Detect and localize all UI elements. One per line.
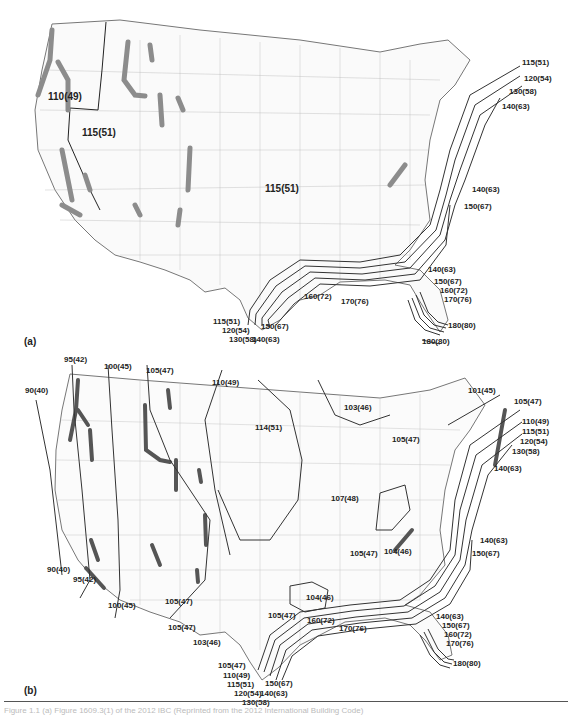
- contour-label: 140(63): [436, 613, 464, 621]
- contour-label: 115(51): [522, 428, 549, 436]
- contour-label: 104(46): [306, 594, 334, 602]
- contour-label: 110(49): [212, 379, 239, 387]
- contour-label: 105(47): [392, 436, 420, 444]
- contour-label: 150(67): [434, 278, 462, 286]
- contour-label: 100(45): [108, 602, 136, 610]
- contour-label: 90(40): [47, 566, 70, 574]
- contour-label: 180(80): [422, 338, 450, 346]
- contour-label: 105(47): [168, 624, 196, 632]
- contour-label: 150(67): [472, 550, 500, 558]
- contour-label: 130(58): [512, 448, 540, 456]
- contour-label: 105(47): [218, 662, 246, 670]
- wind-speed-label: 115(51): [265, 184, 299, 194]
- contour-label: 140(63): [472, 186, 500, 194]
- contour-label: 150(67): [265, 680, 293, 688]
- contour-label: 110(49): [223, 672, 250, 680]
- contour-label: 180(80): [453, 660, 481, 668]
- contour-label: 140(63): [494, 465, 522, 473]
- map-panel-a: 110(49) 115(51) 115(51) 115(51) 120(54) …: [0, 0, 572, 350]
- contour-label: 115(51): [213, 318, 240, 326]
- wind-speed-label: 115(51): [82, 128, 116, 138]
- contour-label: 105(47): [146, 367, 174, 375]
- contour-label: 140(63): [252, 336, 280, 344]
- contour-label: 180(80): [448, 322, 476, 330]
- contour-label: 103(46): [344, 404, 372, 412]
- contour-label: 95(42): [73, 576, 96, 584]
- contour-label: 170(76): [446, 640, 474, 648]
- contour-label: 150(67): [261, 323, 289, 331]
- contour-label: 90(40): [25, 387, 48, 395]
- contour-label: 115(51): [522, 59, 549, 67]
- contour-label: 105(47): [514, 398, 542, 406]
- contour-label: 105(47): [268, 612, 296, 620]
- contour-label: 104(46): [384, 548, 412, 556]
- contour-label: 114(51): [255, 424, 282, 432]
- contour-label: 105(47): [350, 550, 378, 558]
- contour-label: 160(72): [440, 287, 468, 295]
- contour-label: 107(48): [331, 495, 359, 503]
- panel-letter-b: (b): [24, 685, 37, 696]
- contour-label: 103(46): [193, 639, 221, 647]
- contour-label: 140(63): [428, 266, 456, 274]
- us-map-a: [0, 0, 572, 350]
- contour-label: 120(54): [524, 75, 552, 83]
- contour-label: 140(63): [480, 537, 508, 545]
- contour-label: 150(67): [464, 203, 492, 211]
- contour-label: 140(63): [502, 103, 530, 111]
- figure-caption: Figure 1.1 (a) Figure 1609.3(1) of the 2…: [4, 706, 568, 715]
- contour-label: 95(42): [64, 356, 87, 364]
- contour-label: 100(45): [104, 363, 132, 371]
- contour-label: 160(72): [444, 631, 472, 639]
- contour-label: 150(67): [442, 622, 470, 630]
- wind-speed-label: 110(49): [48, 92, 82, 102]
- contour-label: 101(45): [468, 387, 496, 395]
- contour-label: 160(72): [304, 293, 332, 301]
- panel-letter-a: (a): [24, 336, 36, 347]
- contour-label: 120(54): [234, 690, 262, 698]
- contour-label: 130(58): [509, 88, 537, 96]
- us-map-b: [0, 350, 572, 695]
- contour-label: 160(72): [307, 617, 335, 625]
- contour-label: 115(51): [227, 681, 254, 689]
- contour-label: 120(54): [520, 438, 548, 446]
- contour-label: 170(76): [444, 296, 472, 304]
- contour-label: 170(76): [341, 298, 369, 306]
- caption-divider: [4, 701, 568, 702]
- contour-label: 170(76): [339, 625, 367, 633]
- contour-label: 120(54): [222, 327, 250, 335]
- contour-label: 105(47): [165, 598, 193, 606]
- map-panel-b: 90(40) 95(42) 100(45) 105(47) 110(49) 95…: [0, 350, 572, 695]
- contour-label: 110(49): [522, 418, 549, 426]
- contour-label: 140(63): [260, 690, 288, 698]
